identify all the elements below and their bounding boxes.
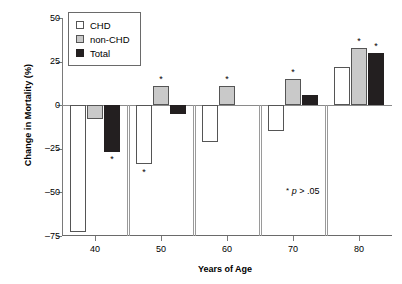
significance-marker: * bbox=[151, 75, 171, 84]
y-tick-label: 50 bbox=[20, 14, 60, 23]
chart-legend: CHD non-CHD Total bbox=[68, 12, 141, 66]
legend-label-non-chd: non-CHD bbox=[90, 34, 130, 45]
x-tick bbox=[293, 236, 294, 241]
significance-marker: * bbox=[366, 42, 386, 51]
group-separator bbox=[259, 105, 260, 236]
x-tick-label: 50 bbox=[141, 244, 181, 254]
bar-chd-70 bbox=[268, 105, 284, 131]
bar-chd-40 bbox=[70, 105, 86, 232]
p-value-symbol: p bbox=[292, 186, 297, 196]
bar-non-chd-40 bbox=[87, 105, 103, 119]
bar-non-chd-60 bbox=[219, 86, 235, 105]
group-separator bbox=[261, 105, 262, 236]
x-tick bbox=[227, 236, 228, 241]
x-tick bbox=[161, 236, 162, 241]
significance-marker: * bbox=[102, 155, 122, 164]
group-separator bbox=[127, 105, 128, 236]
bar-total-80 bbox=[368, 53, 384, 105]
p-value-asterisk: * bbox=[286, 186, 289, 195]
significance-marker: * bbox=[217, 75, 237, 84]
x-tick-label: 40 bbox=[75, 244, 115, 254]
bar-non-chd-70 bbox=[285, 79, 301, 105]
group-separator bbox=[129, 105, 130, 236]
y-tick-label: –25 bbox=[20, 144, 60, 153]
legend-swatch-total bbox=[76, 49, 84, 57]
p-value-annotation: * p > .05 bbox=[286, 186, 319, 196]
x-tick-label: 80 bbox=[339, 244, 379, 254]
legend-item-non-chd: non-CHD bbox=[76, 32, 130, 46]
legend-swatch-non-chd bbox=[76, 35, 84, 43]
legend-label-total: Total bbox=[90, 48, 110, 59]
bar-chd-80 bbox=[334, 67, 350, 105]
y-tick-label: –50 bbox=[20, 188, 60, 197]
y-tick-label: 25 bbox=[20, 57, 60, 66]
legend-swatch-chd bbox=[76, 21, 84, 29]
x-tick-label: 60 bbox=[207, 244, 247, 254]
x-axis-title: Years of Age bbox=[60, 264, 390, 274]
mortality-change-bar-chart: Change in Mortality (%) Years of Age 502… bbox=[0, 0, 402, 284]
bar-non-chd-50 bbox=[153, 86, 169, 105]
y-tick-label: –75 bbox=[20, 232, 60, 241]
y-tick-label: 0 bbox=[20, 101, 60, 110]
legend-item-total: Total bbox=[76, 46, 130, 60]
significance-marker: * bbox=[283, 68, 303, 77]
bar-total-50 bbox=[170, 105, 186, 114]
legend-label-chd: CHD bbox=[90, 20, 111, 31]
x-tick bbox=[95, 236, 96, 241]
legend-item-chd: CHD bbox=[76, 18, 130, 32]
bar-non-chd-80 bbox=[351, 48, 367, 106]
y-axis-line bbox=[62, 18, 63, 236]
bar-total-40 bbox=[104, 105, 120, 152]
x-tick-label: 70 bbox=[273, 244, 313, 254]
group-separator bbox=[193, 105, 194, 236]
bar-total-70 bbox=[302, 95, 318, 106]
x-tick bbox=[359, 236, 360, 241]
group-separator bbox=[195, 105, 196, 236]
bar-chd-50 bbox=[136, 105, 152, 164]
group-separator bbox=[325, 105, 326, 236]
significance-marker: * bbox=[134, 168, 154, 177]
bar-chd-60 bbox=[202, 105, 218, 142]
group-separator bbox=[327, 105, 328, 236]
p-value-expression: > .05 bbox=[299, 186, 319, 196]
